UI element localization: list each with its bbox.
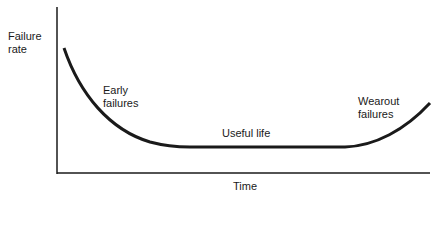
useful-life-label: Useful life [222, 127, 270, 140]
early-label-line2: failures [103, 97, 138, 110]
y-axis-label: Failure rate [8, 30, 42, 56]
x-axis-label: Time [233, 180, 257, 193]
wearout-failures-label: Wearout failures [358, 95, 399, 121]
wearout-label-line2: failures [358, 108, 399, 121]
wearout-label-line1: Wearout [358, 95, 399, 108]
early-label-line1: Early [103, 84, 138, 97]
useful-life-line1: Useful life [222, 127, 270, 140]
y-axis-label-line1: Failure [8, 30, 42, 43]
early-failures-label: Early failures [103, 84, 138, 110]
y-axis-label-line2: rate [8, 43, 42, 56]
